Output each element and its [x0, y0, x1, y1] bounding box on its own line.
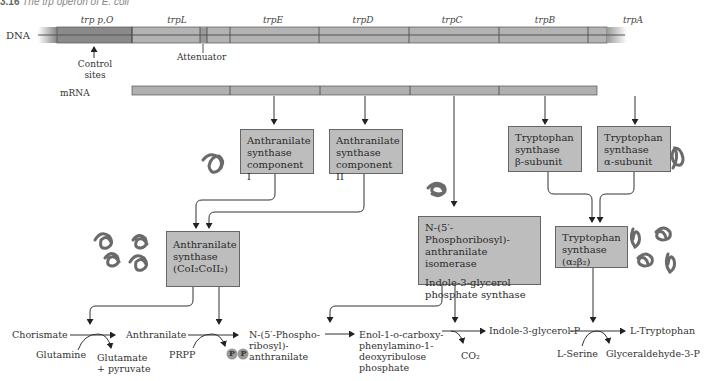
gene-trpE: trpE [263, 15, 283, 25]
box-anthranilate-synthase-component-2: Anthranilatesynthasecomponent II [329, 129, 403, 174]
gene-trpA: trpA [623, 15, 643, 25]
prpp: PRPP [169, 349, 195, 360]
anthranilate: Anthranilate [126, 329, 186, 340]
l-serine: L-Serine [557, 348, 598, 359]
gene-trp-po: trp p,O [81, 15, 114, 25]
gene-trpB: trpB [535, 15, 555, 25]
dna-label: DNA [6, 30, 30, 41]
attenuator-label: Attenuator [177, 52, 226, 63]
mrna-label: mRNA [60, 88, 90, 99]
chorismate: Chorismate [12, 329, 68, 340]
pyrophosphate: P P [229, 348, 247, 359]
box-tryptophan-synthase-complex: Tryptophansynthase(α₂β₂) [555, 226, 628, 268]
gene-trpC: trpC [442, 15, 463, 25]
co2: CO₂ [461, 350, 480, 361]
box-anthranilate-synthase-component-1: Anthranilatesynthasecomponent I [240, 129, 314, 174]
diagram-graphics [0, 0, 704, 381]
l-tryptophan: L-Tryptophan [630, 325, 695, 336]
dna-bar [38, 27, 627, 58]
box-tryptophan-synthase-beta: Tryptophansynthaseβ-subunit [508, 126, 582, 172]
glyceraldehyde-3-p: Glyceraldehyde-3-P [606, 348, 700, 359]
box-tryptophan-synthase-alpha: Tryptophansynthaseα-subunit [597, 126, 671, 172]
indole-3-glycerol-p: Indole-3-glycerol-P [489, 325, 580, 336]
gene-trpL: trpL [167, 15, 187, 25]
npra: N-(5′-Phospho-ribosyl)-anthranilate [249, 329, 320, 362]
glutamate-pyruvate: Glutamate+ pyruvate [97, 352, 151, 374]
control-sites-label: Controlsites [76, 59, 114, 81]
cdrp: Enol-1-o-carboxy-phenylamino-1-deoxyribu… [359, 329, 443, 373]
glutamine: Glutamine [36, 349, 86, 360]
gene-trpD: trpD [353, 15, 374, 25]
box-prai-igps: N-(5′-Phosphoribosyl)-anthranilate isome… [418, 216, 541, 285]
mrna-bar [132, 86, 597, 95]
box-anthranilate-synthase-complex: Anthranilatesynthase(CoI₂CoII₂) [166, 231, 240, 287]
